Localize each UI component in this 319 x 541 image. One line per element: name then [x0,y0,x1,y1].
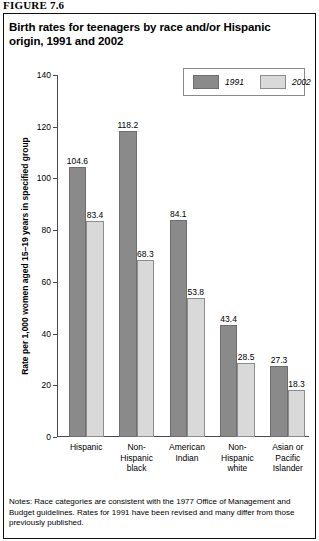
bar-slot: 43.4 [220,75,238,437]
y-tick-label: 80 [42,225,51,235]
bar-group: 104.683.4Hispanic [69,75,104,437]
bar-slot: 18.3 [288,75,306,437]
bar-slot: 68.3 [137,75,155,437]
bar[interactable]: 83.4 [86,221,104,437]
y-tick-label: 120 [37,122,51,132]
figure-title: Birth rates for teenagers by race and/or… [9,20,307,48]
y-tick [53,230,57,231]
bar[interactable]: 84.1 [170,220,188,437]
bar-slot: 28.5 [237,75,255,437]
y-tick [53,178,57,179]
y-tick [53,334,57,335]
bar-value-label: 68.3 [137,249,154,259]
bar-slot: 104.6 [69,75,87,437]
y-tick-label: 140 [37,70,51,80]
y-tick [53,127,57,128]
bar-slot: 53.8 [187,75,205,437]
figure-notes: Notes: Race categories are consistent wi… [9,497,305,529]
bar-group: 43.428.5Non- Hispanic white [220,75,255,437]
x-category-label: Asian or Pacific Islander [259,442,317,474]
y-tick-label: 60 [42,277,51,287]
bar-value-label: 84.1 [170,209,187,219]
y-tick-label: 0 [46,432,51,442]
bar-group: 84.153.8American Indian [170,75,205,437]
bar-slot: 84.1 [170,75,188,437]
bar-slot: 118.2 [119,75,137,437]
bar-slot: 83.4 [86,75,104,437]
bar[interactable]: 27.3 [270,366,288,437]
bar-value-label: 43.4 [220,314,237,324]
bar[interactable]: 28.5 [237,363,255,437]
y-tick [53,75,57,76]
bar-group: 27.318.3Asian or Pacific Islander [270,75,305,437]
bar-value-label: 83.4 [87,210,104,220]
bar-value-label: 27.3 [271,355,288,365]
bar-value-label: 53.8 [187,287,204,297]
bar[interactable]: 118.2 [119,131,137,437]
y-tick [53,437,57,438]
figure-container: FIGURE 7.6 Birth rates for teenagers by … [0,0,319,541]
bar[interactable]: 43.4 [220,325,238,437]
x-category-label: American Indian [158,442,216,463]
x-category-label: Non- Hispanic white [208,442,266,474]
y-tick [53,385,57,386]
x-category-label: Non- Hispanic black [108,442,166,474]
y-tick-label: 100 [37,173,51,183]
figure-number: FIGURE 7.6 [3,0,64,11]
bar[interactable]: 53.8 [187,298,205,437]
bar[interactable]: 68.3 [137,260,155,437]
bar[interactable]: 104.6 [69,167,87,437]
bar-value-label: 28.5 [238,352,255,362]
y-tick [53,282,57,283]
y-axis-title: Rate per 1,000 women aged 15–19 years in… [18,75,32,437]
x-category-label: Hispanic [57,442,115,453]
y-tick-label: 40 [42,329,51,339]
plot-area: 020406080100120140 104.683.4Hispanic118.… [57,75,309,437]
bar-value-label: 104.6 [67,156,88,166]
bar-slot: 27.3 [270,75,288,437]
bar-value-label: 18.3 [288,379,305,389]
y-axis-line [57,75,58,437]
bar-value-label: 118.2 [118,120,139,130]
bar[interactable]: 18.3 [288,390,306,437]
bar-group: 118.268.3Non- Hispanic black [119,75,154,437]
y-tick-label: 20 [42,380,51,390]
